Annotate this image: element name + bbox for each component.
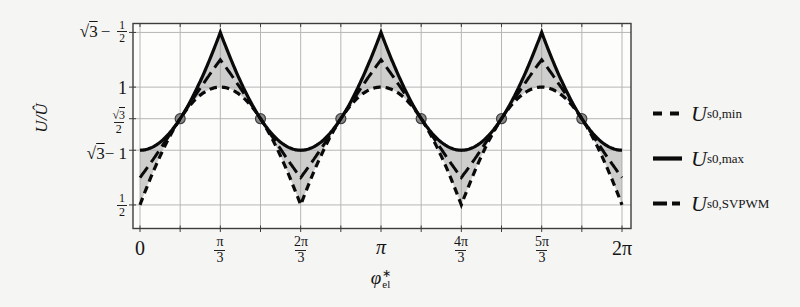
fraction: 12 [117,192,127,218]
fraction: 2π3 [292,235,310,265]
phi-symbol: φ [371,267,382,289]
fraction: √32 [110,109,127,135]
y-tick-sqrt3-minus-1: √3 − 1 [27,144,127,164]
legend-subscript: s0,SVPWM [707,197,770,210]
radical-arg: 3 [96,144,105,164]
legend-label-us0svpwm: Us0,SVPWM [691,190,769,217]
x-tick-2pi-over-3: 2π3 [266,235,336,265]
legend-symbol: U [691,146,707,172]
phi-subscript: el [382,279,390,290]
legend-symbol: U [691,191,707,217]
y-tick-one: 1 [27,78,127,99]
radical-arg: 3 [89,22,98,42]
legend-symbol: U [691,101,707,127]
y-tick-one-half: 12 [27,192,127,218]
fraction: π3 [214,235,225,265]
x-tick-pi-over-3: π3 [185,235,255,265]
legend-label-us0min: Us0,min [691,100,742,127]
x-tick-0: 0 [105,237,175,260]
x-tick-pi: π [346,236,416,259]
x-axis-label: φ∗el [346,267,416,290]
minus-one: − 1 [105,144,127,164]
legend-subscript: s0,min [707,107,742,120]
legend-subscript: s0,max [707,152,744,165]
radical-sign: √ [80,22,89,42]
fraction: 12 [117,19,127,44]
x-tick-5pi-over-3: 5π3 [507,235,577,265]
y-tick-sqrt3-over-2: √32 [27,109,127,135]
radical-arg: 3 [119,108,125,122]
y-tick-sqrt3-minus-half: √3−12 [27,19,127,44]
x-tick-2pi: 2π [587,237,657,260]
radical-sign: √ [112,108,119,122]
fraction: 5π3 [533,235,551,265]
minus-sign: − [101,22,111,42]
legend-label-us0max: Us0,max [691,145,744,172]
radical-sign: √ [87,144,96,164]
figure: U/Û √3−12 1 √32 √3 − 1 12 0 π3 2π3 π 4π3… [0,0,800,307]
fraction: 4π3 [452,235,470,265]
x-tick-4pi-over-3: 4π3 [426,235,496,265]
